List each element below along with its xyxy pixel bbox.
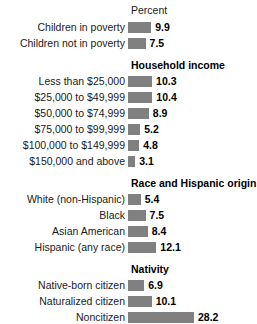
bar-value-label: 9.9 [155, 21, 170, 34]
group-heading: Nativity [131, 263, 169, 275]
bar [128, 280, 144, 291]
chart-row: $150,000 and above3.1 [0, 155, 256, 168]
bar-value-label: 10.1 [156, 295, 176, 308]
bar-value-label: 5.2 [144, 123, 159, 136]
row-label: Naturalized citizen [0, 295, 128, 308]
bar-track: 3.1 [128, 155, 256, 168]
bar-track: 8.9 [128, 107, 256, 120]
bar [128, 108, 149, 119]
chart-row: $50,000 to $74,9998.9 [0, 107, 256, 120]
row-label: $75,000 to $99,999 [0, 123, 128, 136]
chart-row: Black7.5 [0, 209, 256, 222]
row-label: Less than $25,000 [0, 75, 128, 88]
axis-title-percent: Percent [131, 4, 167, 16]
bar-track: 10.3 [128, 75, 256, 88]
chart-row: $75,000 to $99,9995.2 [0, 123, 256, 136]
chart-row: Naturalized citizen10.1 [0, 295, 256, 308]
bar-track: 5.2 [128, 123, 256, 136]
bar-track: 12.1 [128, 241, 256, 254]
bar-track: 6.9 [128, 279, 256, 292]
chart-row: Children not in poverty7.5 [0, 37, 256, 50]
row-label: $150,000 and above [0, 155, 128, 168]
bar-track: 7.5 [128, 37, 256, 50]
chart-row: White (non-Hispanic)5.4 [0, 193, 256, 206]
bar [128, 194, 141, 205]
bar [128, 210, 146, 221]
bar-value-label: 3.1 [139, 155, 154, 168]
bar [128, 296, 152, 307]
bar [128, 242, 156, 253]
bar-value-label: 6.9 [148, 279, 163, 292]
bar-value-label: 8.4 [152, 225, 167, 238]
bar-track: 8.4 [128, 225, 256, 238]
row-label: Asian American [0, 225, 128, 238]
bar-value-label: 10.3 [156, 75, 176, 88]
bar [128, 76, 152, 87]
chart-row: Children in poverty9.9 [0, 21, 256, 34]
bar [128, 38, 146, 49]
chart-row: $100,000 to $149,9994.8 [0, 139, 256, 152]
row-label: Hispanic (any race) [0, 241, 128, 254]
row-label: Children in poverty [0, 21, 128, 34]
chart-row: Less than $25,00010.3 [0, 75, 256, 88]
chart-row: $25,000 to $49,99910.4 [0, 91, 256, 104]
bar-value-label: 4.8 [143, 139, 158, 152]
bar [128, 156, 135, 167]
bar-track: 28.2 [128, 311, 256, 324]
bar-value-label: 7.5 [150, 209, 165, 222]
bar-value-label: 5.4 [145, 193, 160, 206]
bar-value-label: 8.9 [153, 107, 168, 120]
row-label: $100,000 to $149,999 [0, 139, 128, 152]
bar [128, 92, 152, 103]
chart-row: Asian American8.4 [0, 225, 256, 238]
row-label: $25,000 to $49,999 [0, 91, 128, 104]
bar-track: 4.8 [128, 139, 256, 152]
row-label: Children not in poverty [0, 37, 128, 50]
bar-track: 10.1 [128, 295, 256, 308]
group-heading: Race and Hispanic origin [131, 177, 256, 189]
bar-track: 5.4 [128, 193, 256, 206]
bar-track: 7.5 [128, 209, 256, 222]
row-label: Black [0, 209, 128, 222]
bar-track: 9.9 [128, 21, 256, 34]
chart-row: Hispanic (any race)12.1 [0, 241, 256, 254]
bar [128, 226, 148, 237]
bar-value-label: 12.1 [160, 241, 180, 254]
chart-row: Noncitizen28.2 [0, 311, 256, 324]
chart-row: Native-born citizen6.9 [0, 279, 256, 292]
bar-track: 10.4 [128, 91, 256, 104]
bar [128, 124, 140, 135]
row-label: Native-born citizen [0, 279, 128, 292]
bar-value-label: 10.4 [156, 91, 176, 104]
bar-value-label: 7.5 [150, 37, 165, 50]
bar [128, 312, 194, 323]
row-label: $50,000 to $74,999 [0, 107, 128, 120]
bar [128, 140, 139, 151]
row-label: Noncitizen [0, 311, 128, 324]
bar-value-label: 28.2 [198, 311, 218, 324]
row-label: White (non-Hispanic) [0, 193, 128, 206]
bar [128, 22, 151, 33]
group-heading: Household income [131, 59, 225, 71]
